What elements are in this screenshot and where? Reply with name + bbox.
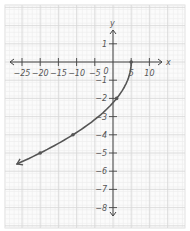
data-point [38,151,42,155]
y-axis-label: y [109,19,115,28]
graph-chart: xy −25−20−15−10−505101−1−2−3−4−5−6−7−8 [0,0,190,231]
y-tick-label: −8 [95,204,107,213]
x-tick-label: −25 [14,69,31,78]
x-axis-label: x [165,58,171,67]
y-tick-label: 1 [102,40,107,49]
y-tick-label: −6 [95,167,107,176]
x-tick-label: 0 [103,67,108,76]
x-tick-label: 10 [144,69,154,78]
x-tick-label: −15 [50,69,67,78]
x-tick-label: −10 [68,69,85,78]
data-point [115,97,119,101]
y-tick-label: −7 [95,185,108,194]
data-point [71,133,75,137]
data-point [129,60,133,64]
y-tick-label: −4 [95,131,107,140]
y-tick-label: −1 [95,76,107,85]
y-tick-label: −5 [95,149,107,158]
x-tick-label: −20 [32,69,49,78]
y-tick-label: −2 [95,94,107,103]
